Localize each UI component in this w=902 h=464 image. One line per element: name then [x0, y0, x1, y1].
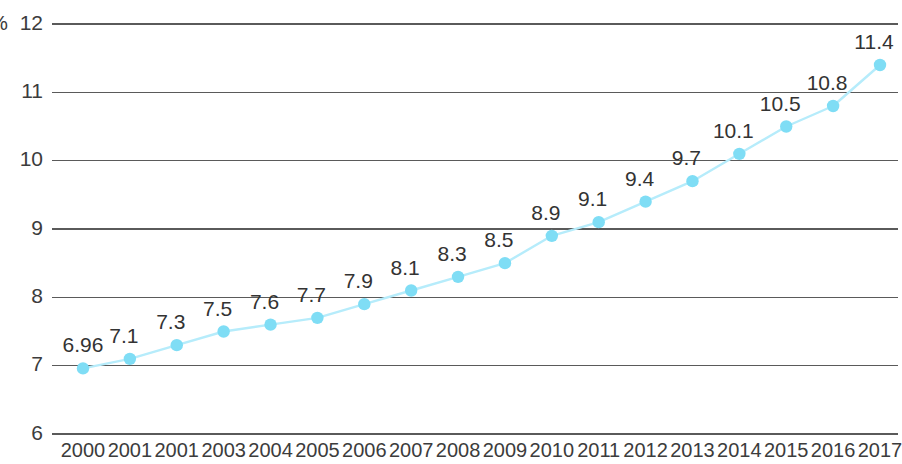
data-point-marker — [499, 257, 511, 269]
x-tick-label-2: 2001 — [155, 439, 200, 461]
data-point-marker — [733, 148, 745, 160]
y-tick-label-7: 7 — [31, 352, 43, 375]
x-tick-label-16: 2016 — [811, 439, 856, 461]
data-point-marker — [124, 353, 136, 365]
data-point-marker — [780, 120, 792, 132]
y-tick-label-11: 11 — [21, 79, 43, 102]
data-point-marker — [358, 298, 370, 310]
x-tick-label-10: 2010 — [530, 439, 575, 461]
data-point-label: 9.1 — [578, 187, 607, 210]
x-tick-label-13: 2013 — [670, 439, 715, 461]
data-point-label: 9.7 — [672, 146, 701, 169]
data-point-marker — [77, 362, 89, 374]
x-tick-label-12: 2012 — [623, 439, 668, 461]
data-point-label: 8.3 — [437, 242, 466, 265]
data-point-label: 7.6 — [250, 290, 279, 313]
y-tick-label-10: 10 — [20, 147, 43, 170]
data-point-label-group: 6.967.17.37.57.67.77.98.18.38.58.99.19.4… — [63, 30, 894, 356]
x-tick-label-3: 2003 — [201, 439, 246, 461]
x-tick-label-4: 2004 — [248, 439, 293, 461]
data-point-marker — [311, 312, 323, 324]
data-point-label: 7.1 — [109, 324, 138, 347]
y-tick-label-12: 12 — [20, 11, 43, 34]
x-tick-label-9: 2009 — [483, 439, 528, 461]
x-tick-label-11: 2011 — [577, 439, 620, 461]
data-point-marker — [686, 175, 698, 187]
x-tick-label-6: 2006 — [342, 439, 387, 461]
y-tick-label-6: 6 — [31, 421, 43, 444]
chart-canvas: 6789101112% 2000200120012003200420052006… — [0, 0, 902, 464]
line-chart: 6789101112% 2000200120012003200420052006… — [0, 0, 902, 464]
data-point-marker — [264, 318, 276, 330]
data-point-marker — [827, 100, 839, 112]
data-point-label: 10.8 — [807, 71, 848, 94]
data-point-marker — [217, 325, 229, 337]
data-point-marker — [639, 195, 651, 207]
x-tick-label-15: 2015 — [764, 439, 809, 461]
x-tick-label-1: 2001 — [108, 439, 153, 461]
data-point-label: 6.96 — [63, 333, 104, 356]
data-point-label: 9.4 — [625, 167, 655, 190]
data-point-marker — [405, 284, 417, 296]
data-point-label: 8.9 — [531, 201, 560, 224]
x-tick-label-14: 2014 — [717, 439, 762, 461]
data-point-marker — [874, 59, 886, 71]
y-axis-unit-label: % — [0, 11, 8, 34]
x-tick-label-5: 2005 — [295, 439, 340, 461]
data-point-label: 7.3 — [156, 310, 185, 333]
y-tick-label-9: 9 — [31, 216, 43, 239]
data-point-marker — [546, 230, 558, 242]
x-tick-label-7: 2007 — [389, 439, 434, 461]
x-tick-label-0: 2000 — [61, 439, 106, 461]
data-point-marker — [171, 339, 183, 351]
x-tick-label-17: 2017 — [858, 439, 902, 461]
data-point-label: 7.5 — [203, 297, 232, 320]
y-tick-label-8: 8 — [31, 284, 43, 307]
gridline-group — [52, 24, 898, 434]
data-point-label: 7.7 — [297, 283, 326, 306]
data-point-label: 7.9 — [344, 269, 373, 292]
data-point-label: 8.1 — [391, 256, 420, 279]
y-axis-tick-labels: 6789101112% — [0, 11, 43, 444]
data-point-marker — [593, 216, 605, 228]
data-point-label: 10.1 — [713, 119, 754, 142]
x-axis-tick-labels: 2000200120012003200420052006200720082009… — [61, 439, 902, 461]
data-point-marker — [452, 271, 464, 283]
x-tick-label-8: 2008 — [436, 439, 481, 461]
data-point-label: 8.5 — [484, 228, 513, 251]
data-point-label: 11.4 — [854, 30, 894, 53]
data-point-label: 10.5 — [760, 92, 801, 115]
